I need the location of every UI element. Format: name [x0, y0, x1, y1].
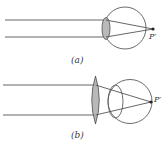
- point-label-a: P′: [149, 33, 156, 41]
- panel-a: [5, 7, 155, 49]
- focal-point-p-prime: [151, 27, 154, 30]
- eyeball-outline: [108, 80, 152, 124]
- refracted-ray-bottom: [106, 29, 153, 37]
- point-label-b: P′: [154, 96, 161, 104]
- focal-point-p-prime: [149, 100, 152, 103]
- eye-optics-diagram: [0, 0, 167, 147]
- corrective-lens: [92, 76, 100, 124]
- caption-b: (b): [71, 131, 84, 140]
- panel-b: [3, 76, 153, 124]
- caption-a: (a): [71, 56, 83, 65]
